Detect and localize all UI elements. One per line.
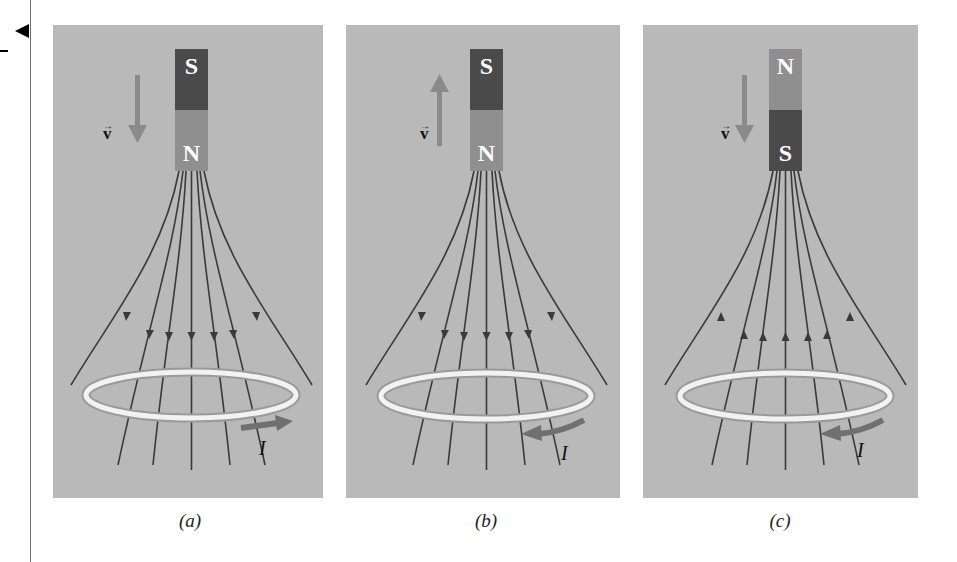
svg-text:→: → — [420, 120, 430, 131]
panel-b-top-pole-label: S — [470, 53, 503, 80]
velocity-arrow-icon — [735, 75, 754, 143]
caption-c: (c) — [730, 510, 830, 532]
caption-a: (a) — [140, 510, 240, 532]
current-arrow-icon — [820, 420, 883, 441]
panel-c-top-pole-label: N — [769, 53, 802, 80]
svg-text:→: → — [721, 120, 731, 131]
velocity-arrow-icon — [430, 74, 449, 146]
panel-a-top-pole-label: S — [175, 53, 208, 80]
panel-c-bottom-pole-label: S — [769, 140, 802, 167]
caption-b: (b) — [436, 510, 536, 532]
svg-text:I: I — [856, 439, 865, 461]
panel-c-drawing: v → I — [643, 25, 918, 498]
panel-b-drawing: v → I — [346, 25, 620, 498]
current-label: I — [258, 437, 267, 459]
margin-pointer-marker — [0, 0, 30, 64]
margin-rule — [30, 0, 31, 562]
panel-a-bottom-pole-label: N — [175, 140, 208, 167]
svg-text:→: → — [103, 120, 113, 131]
panel-a-drawing: v → I — [53, 25, 323, 498]
panel-b: v → I — [346, 25, 620, 498]
svg-text:I: I — [560, 442, 569, 464]
panel-c: v → I — [643, 25, 918, 498]
velocity-arrow-icon — [128, 75, 147, 143]
panel-a: v → I — [53, 25, 323, 498]
panel-b-bottom-pole-label: N — [470, 140, 503, 167]
current-arrow-icon — [521, 420, 584, 441]
